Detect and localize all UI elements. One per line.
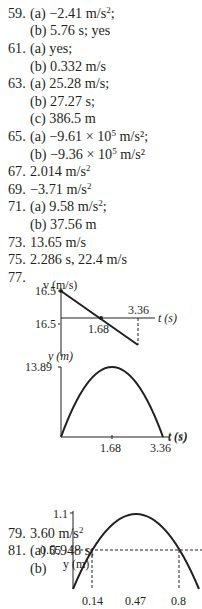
answer-text: 13.65 m/s (30, 234, 86, 250)
answer-text: (b) 37.56 m (30, 216, 97, 232)
answer-text: (b) 0.332 m/s (30, 58, 106, 74)
answer-number: 69. (8, 181, 26, 197)
svg-text:3.36: 3.36 (150, 441, 171, 455)
answer-text: (a) −9.61 × 105 m/s²; (30, 128, 148, 144)
v-top-label: 16.5 (35, 284, 56, 298)
answer-number: 75. (8, 251, 26, 267)
answer-text: (c) 386.5 m (30, 110, 96, 126)
answer-text: 2.286 s, 22.4 m/s (30, 251, 127, 267)
answer-text: (a) yes; (30, 40, 72, 56)
g3-x2: 0.47 (125, 594, 146, 608)
position-time-graph: y (m) 13.89 1.68 3.36 t (s) (0, 345, 202, 445)
t-axis-label: t (s) (158, 311, 177, 325)
answer-text: (a) −2.41 m/s2; (30, 5, 115, 21)
answer-text: (b) 27.27 s; (30, 93, 95, 109)
svg-text:t (s): t (s) (168, 432, 187, 443)
answer-text: (b) 5.76 s; yes (30, 22, 110, 38)
answer-number: 59. (8, 5, 26, 21)
answer-number: 61. (8, 40, 26, 56)
velocity-bottom-label: 16.5 (0, 315, 60, 335)
g3-y-top: 1.1 (53, 507, 68, 521)
answer-number: 67. (8, 163, 26, 179)
answer-text: (a) 25.28 m/s; (30, 75, 109, 91)
svg-text:1.68: 1.68 (100, 441, 121, 455)
svg-text:16.5: 16.5 (35, 317, 56, 331)
answer-text: −3.71 m/s2 (30, 181, 91, 197)
graph-81b: y (m) 1.1 0.55 0.14 0.47 0.8 (0, 488, 202, 609)
answer-number: 63. (8, 75, 26, 91)
t-mid-label: 1.68 (88, 322, 109, 336)
g3-y-mid: 0.55 (40, 543, 61, 557)
answer-number: 71. (8, 198, 26, 214)
answer-number: 65. (8, 128, 26, 144)
g3-x1: 0.14 (82, 594, 103, 608)
answer-text: (a) 9.58 m/s2; (30, 198, 107, 214)
g3-x3: 0.8 (171, 594, 186, 608)
answer-text: (b) −9.36 × 105 m/s² (30, 146, 145, 162)
answer-number: 73. (8, 234, 26, 250)
y-top-label: 13.89 (25, 360, 52, 374)
answer-text: 2.014 m/s2 (30, 163, 90, 179)
t-end-label: 3.36 (128, 303, 149, 317)
position-time-ticks: 1.68 3.36 t (s) (0, 432, 202, 462)
